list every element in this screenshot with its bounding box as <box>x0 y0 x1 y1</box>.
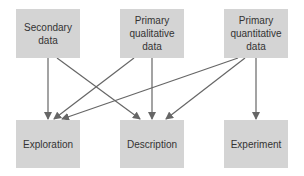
node-label-line: Primary <box>230 14 281 27</box>
node-label: Experiment <box>231 138 282 151</box>
node-secondary-data: Secondary data <box>16 9 80 58</box>
node-label: Exploration <box>23 138 73 151</box>
node-primary-quantitative-data: Primary quantitative data <box>224 9 288 58</box>
node-label-line: data <box>230 40 281 53</box>
arrow-quantitative-to-description <box>166 58 245 119</box>
node-exploration: Exploration <box>16 120 80 168</box>
arrow-quantitative-to-exploration <box>62 58 238 119</box>
node-description: Description <box>120 120 184 168</box>
node-label-line: Secondary <box>24 21 72 34</box>
node-label-line: Primary <box>129 14 174 27</box>
arrow-secondary-to-description <box>57 58 140 119</box>
node-experiment: Experiment <box>224 120 288 168</box>
node-primary-qualitative-data: Primary qualitative data <box>120 9 184 58</box>
node-label-line: quantitative <box>230 27 281 40</box>
node-label-line: data <box>129 40 174 53</box>
arrow-qualitative-to-exploration <box>54 58 134 119</box>
node-label-line: qualitative <box>129 27 174 40</box>
node-label: Description <box>127 138 177 151</box>
node-label-line: data <box>24 34 72 47</box>
